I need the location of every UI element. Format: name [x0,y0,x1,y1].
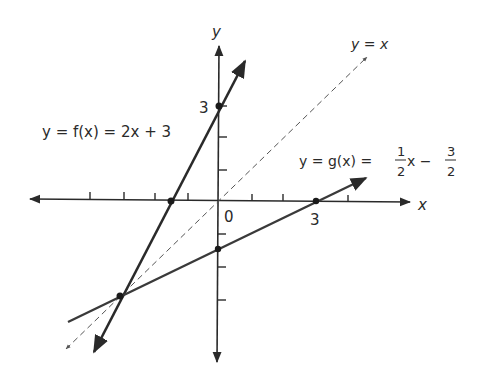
svg-text:1: 1 [397,144,405,159]
y-tick-label-3: 3 [199,99,209,117]
svg-text:y = g(x) =: y = g(x) = [299,153,372,169]
svg-text:x −: x − [407,153,431,169]
y-axis-label: y [211,23,222,41]
identity-line [66,57,367,349]
f-line [94,61,245,352]
x-tick-label-3: 3 [310,211,320,229]
g-line-label: y = g(x) = 1 2 x − 3 2 [299,144,456,179]
y-axis-ticks [218,106,227,300]
y-axis [217,46,227,362]
x-axis-label: x [417,196,427,214]
identity-line-label: y = x [350,36,389,52]
g-x-intercept-point [313,198,319,204]
g-y-intercept-point [215,246,221,252]
function-inverse-diagram: y x 0 3 3 y = x y = f(x) = 2x + 3 y = g(… [0,0,483,379]
intersection-point [117,293,124,300]
svg-text:2: 2 [447,164,455,179]
f-x-intercept-point [168,198,175,205]
svg-text:2: 2 [397,164,405,179]
f-line-label: y = f(x) = 2x + 3 [42,123,171,141]
origin-label: 0 [224,208,234,226]
x-axis [30,192,410,202]
f-y-intercept-point [216,103,223,110]
svg-text:3: 3 [447,144,455,159]
